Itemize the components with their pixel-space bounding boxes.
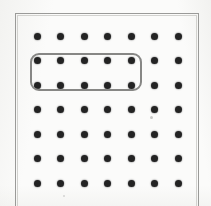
grid-dot <box>128 106 135 113</box>
grid-dot <box>34 33 41 40</box>
grid-dot <box>81 131 88 138</box>
grid-dot <box>104 106 111 113</box>
scan-smudge <box>150 116 153 119</box>
grid-dot <box>34 106 41 113</box>
grid-dot <box>151 155 158 162</box>
grid-dot <box>151 131 158 138</box>
grid-dot <box>81 33 88 40</box>
grid-dot <box>81 155 88 162</box>
grid-dot <box>151 180 158 187</box>
grid-dot <box>34 155 41 162</box>
grid-dot <box>151 106 158 113</box>
grid-dot <box>81 106 88 113</box>
figure-root: 10 <box>0 0 211 206</box>
grid-dot <box>57 131 64 138</box>
grid-dot <box>175 106 182 113</box>
grid-dot <box>151 57 158 64</box>
grid-dot <box>104 33 111 40</box>
grid-dot <box>128 155 135 162</box>
grid-dot <box>128 33 135 40</box>
grid-dot <box>57 180 64 187</box>
grid-dot <box>175 180 182 187</box>
grid-dot <box>151 82 158 89</box>
grid-dot <box>175 131 182 138</box>
grid-dot <box>57 106 64 113</box>
scan-speck <box>63 195 65 197</box>
grid-dot <box>104 155 111 162</box>
grid-dot <box>175 155 182 162</box>
grid-dot <box>81 180 88 187</box>
grouped-dots-outline[interactable] <box>30 53 142 91</box>
grid-dot <box>34 180 41 187</box>
grid-dot <box>34 131 41 138</box>
grid-dot <box>175 33 182 40</box>
grid-dot <box>175 57 182 64</box>
grid-dot <box>175 82 182 89</box>
grid-dot <box>57 155 64 162</box>
grid-dot <box>104 131 111 138</box>
grid-dot <box>57 33 64 40</box>
grid-dot <box>128 180 135 187</box>
grid-dot <box>128 131 135 138</box>
grid-dot <box>104 180 111 187</box>
grid-dot <box>151 33 158 40</box>
